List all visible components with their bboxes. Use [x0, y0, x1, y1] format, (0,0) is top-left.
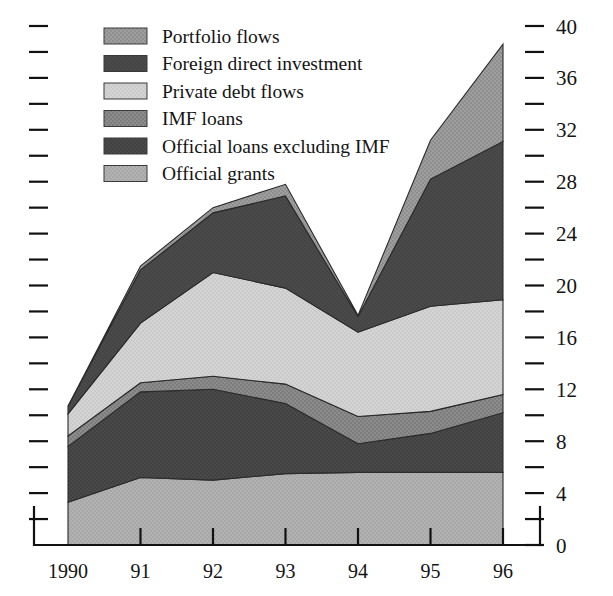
y-axis-tick-label: 20 [556, 274, 577, 298]
chart-legend: Portfolio flowsForeign direct investment… [104, 26, 390, 185]
x-axis-tick-label: 1990 [48, 560, 88, 582]
imf-loans-swatch [104, 111, 147, 127]
x-axis-labels: 1990919293949596 [48, 560, 513, 582]
legend-item-foreign-direct-investment: Foreign direct investment [104, 53, 363, 74]
legend-label-official-grants: Official grants [162, 163, 275, 184]
official-loans-excluding-imf-swatch [104, 138, 147, 154]
official-grants-swatch [104, 166, 147, 182]
legend-label-foreign-direct-investment: Foreign direct investment [162, 53, 363, 74]
legend-item-official-loans-excluding-imf: Official loans excluding IMF [104, 136, 390, 157]
y-axis-tick-label: 8 [556, 430, 567, 454]
y-axis-tick-label: 12 [556, 378, 577, 402]
chart-canvas: 0481216202428323640 1990919293949596 Por… [0, 0, 613, 596]
y-axis-tick-label: 28 [556, 170, 577, 194]
legend-label-private-debt-flows: Private debt flows [162, 81, 304, 102]
y-axis-tick-label: 40 [556, 15, 577, 39]
legend-item-portfolio-flows: Portfolio flows [104, 26, 280, 47]
legend-item-private-debt-flows: Private debt flows [104, 81, 304, 102]
legend-item-imf-loans: IMF loans [104, 108, 243, 129]
y-axis-labels: 0481216202428323640 [556, 15, 578, 558]
portfolio-flows-swatch [104, 28, 147, 44]
private-debt-flows-swatch [104, 83, 147, 99]
legend-label-official-loans-excluding-imf: Official loans excluding IMF [162, 136, 390, 157]
x-axis-tick-label: 92 [203, 560, 223, 582]
x-axis-tick-label: 93 [276, 560, 296, 582]
x-axis-tick-label: 96 [493, 560, 513, 582]
x-axis-tick-label: 94 [348, 560, 368, 582]
y-axis-tick-label: 16 [556, 326, 577, 350]
legend-label-portfolio-flows: Portfolio flows [162, 26, 280, 47]
legend-label-imf-loans: IMF loans [162, 108, 243, 129]
y-axis-tick-label: 24 [556, 222, 578, 246]
y-axis-tick-label: 0 [556, 534, 567, 558]
x-axis-tick-label: 95 [421, 560, 441, 582]
y-axis-tick-label: 32 [556, 118, 577, 142]
x-axis-tick-label: 91 [131, 560, 151, 582]
y-axis-tick-label: 36 [556, 66, 577, 90]
legend-item-official-grants: Official grants [104, 163, 275, 184]
foreign-direct-investment-swatch [104, 56, 147, 72]
y-axis-tick-label: 4 [556, 482, 567, 506]
stacked-area-chart: 0481216202428323640 1990919293949596 Por… [0, 0, 613, 596]
